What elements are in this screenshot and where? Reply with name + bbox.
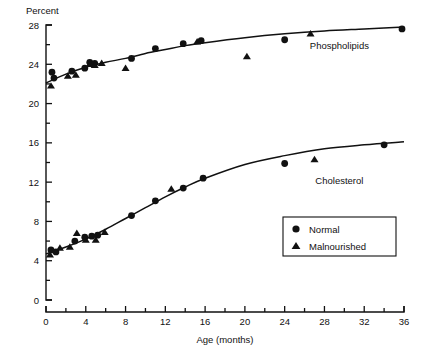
y-tick-label: 4: [34, 255, 39, 266]
data-point-malnourished: [73, 229, 81, 235]
legend-circle-icon: [292, 225, 299, 232]
series-malnourished: [46, 30, 319, 257]
data-point-normal: [281, 36, 288, 43]
data-point-normal: [68, 68, 75, 75]
y-axis-tick-labels: 0481216202428: [28, 20, 39, 306]
data-point-normal: [200, 175, 207, 182]
data-point-normal: [152, 45, 159, 52]
data-point-malnourished: [47, 82, 55, 88]
curve-label-phospholipids: Phospholipids: [310, 40, 369, 51]
y-tick-label: 24: [28, 59, 39, 70]
y-tick-label: 20: [28, 98, 39, 109]
y-tick-label: 28: [28, 20, 39, 31]
data-point-normal: [152, 197, 159, 204]
legend: NormalMalnourished: [283, 217, 396, 256]
chart-figure: 0481216202428 04812162024283236 Percent …: [0, 0, 421, 358]
data-point-normal: [399, 26, 406, 33]
x-tick-label: 0: [43, 316, 48, 327]
y-tick-label: 16: [28, 137, 39, 148]
curve-label-cholesterol: Cholesterol: [315, 175, 363, 186]
x-tick-label: 36: [399, 316, 410, 327]
curve-annotations: PhospholipidsCholesterol: [310, 40, 369, 187]
x-axis-title: Age (months): [196, 334, 253, 345]
y-tick-label: 8: [34, 216, 39, 227]
fit-curve-phospholipids: [46, 27, 404, 83]
x-axis-tick-labels: 04812162024283236: [43, 316, 409, 327]
data-point-malnourished: [311, 156, 319, 162]
data-point-normal: [88, 233, 95, 240]
x-tick-label: 32: [359, 316, 370, 327]
y-axis-title: Percent: [26, 5, 59, 16]
x-tick-label: 4: [83, 316, 88, 327]
x-tick-label: 12: [160, 316, 171, 327]
data-point-normal: [281, 160, 288, 167]
data-point-normal: [49, 69, 56, 76]
y-axis-ticks: [46, 25, 52, 300]
x-axis-ticks: [46, 306, 404, 312]
y-tick-label: 0: [34, 295, 39, 306]
data-point-normal: [128, 212, 135, 219]
x-tick-label: 8: [123, 316, 128, 327]
data-point-malnourished: [122, 64, 130, 70]
legend-label: Normal: [309, 224, 340, 235]
data-point-normal: [51, 75, 58, 82]
data-point-normal: [71, 238, 78, 245]
data-point-malnourished: [243, 53, 251, 59]
x-tick-label: 24: [279, 316, 290, 327]
x-tick-label: 20: [240, 316, 251, 327]
data-point-normal: [180, 40, 187, 47]
data-point-malnourished: [167, 185, 175, 191]
x-tick-label: 16: [200, 316, 211, 327]
data-point-normal: [180, 185, 187, 192]
scatter-plot: 0481216202428 04812162024283236 Percent …: [0, 0, 421, 358]
data-point-normal: [128, 55, 135, 62]
legend-label: Malnourished: [309, 241, 366, 252]
data-point-normal: [381, 141, 388, 148]
y-tick-label: 12: [28, 177, 39, 188]
x-tick-label: 28: [319, 316, 330, 327]
